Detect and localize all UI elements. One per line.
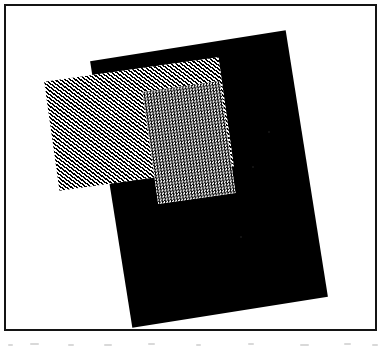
scan-noise-mark bbox=[372, 344, 378, 346]
scan-noise-mark bbox=[344, 343, 351, 345]
figure-border-frame bbox=[4, 4, 377, 331]
scan-speckle bbox=[252, 166, 254, 168]
scan-noise-mark bbox=[68, 344, 74, 346]
scan-noise-mark bbox=[300, 344, 309, 346]
scan-noise-band bbox=[0, 337, 391, 349]
figure-canvas bbox=[6, 6, 375, 329]
scan-speckle bbox=[240, 236, 242, 238]
scan-noise-mark bbox=[104, 344, 112, 346]
scan-noise-mark bbox=[248, 343, 254, 345]
figure-root bbox=[0, 0, 391, 349]
scan-noise-mark bbox=[196, 344, 201, 346]
scan-noise-mark bbox=[8, 344, 13, 346]
scan-noise-mark bbox=[30, 343, 39, 345]
scan-speckle bbox=[268, 131, 270, 133]
scan-noise-mark bbox=[148, 343, 155, 345]
overlap-stipple-region bbox=[143, 81, 236, 204]
